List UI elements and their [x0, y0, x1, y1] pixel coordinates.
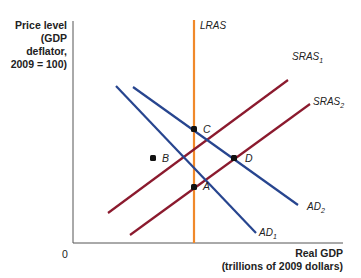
sras2-label-sub: 2	[340, 102, 344, 109]
ad1-label-sub: 1	[273, 233, 277, 240]
sras1-label-text: SRAS	[292, 51, 319, 62]
point-a-label: A	[203, 180, 210, 192]
point-b-label: B	[162, 152, 169, 164]
point-c-label: C	[203, 123, 211, 135]
sras2-label: SRAS2	[313, 96, 344, 109]
ad1-label: AD1	[259, 227, 277, 240]
point-b-marker	[150, 155, 156, 161]
y-axis-label-line: Price level	[11, 19, 67, 32]
lras-label-text: LRAS	[200, 20, 226, 31]
origin-label: 0	[62, 248, 68, 260]
x-axis-label: Real GDP (trillions of 2009 dollars)	[222, 247, 343, 273]
y-axis-label-line: (GDP	[11, 32, 67, 45]
point-d-label: D	[245, 152, 253, 164]
lras-label: LRAS	[200, 20, 226, 31]
ad1-label-text: AD	[259, 227, 273, 238]
sras1-label-sub: 1	[319, 57, 323, 64]
x-axis-label-line: (trillions of 2009 dollars)	[222, 260, 343, 273]
sras2-label-text: SRAS	[313, 96, 340, 107]
point-a-marker	[191, 184, 197, 190]
ad2-curve	[133, 87, 298, 205]
sras1-curve	[108, 80, 288, 213]
sras2-curve	[130, 104, 310, 235]
point-c-marker	[191, 126, 197, 132]
ad2-label-text: AD	[307, 201, 321, 212]
point-d-marker	[231, 155, 237, 161]
x-axis-label-line: Real GDP	[222, 247, 343, 260]
sras1-label: SRAS1	[292, 51, 323, 64]
ad2-label-sub: 2	[321, 207, 325, 214]
y-axis-label-line: 2009 = 100)	[11, 58, 67, 71]
y-axis-label: Price level (GDP deflator, 2009 = 100)	[11, 19, 67, 71]
ad2-label: AD2	[307, 201, 325, 214]
y-axis-label-line: deflator,	[11, 45, 67, 58]
